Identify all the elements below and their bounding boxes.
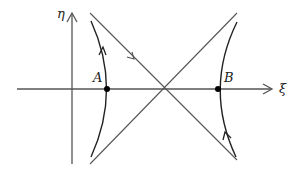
xi-axis-label: ξ [279,81,287,96]
eta-axis-label: η [57,6,65,21]
point-a [104,86,110,92]
point-b [215,86,221,92]
phase-diagram: ξ η A B [0,0,302,173]
point-b-label: B [223,70,234,85]
point-a-label: A [92,70,102,85]
xi-axis [17,84,272,94]
